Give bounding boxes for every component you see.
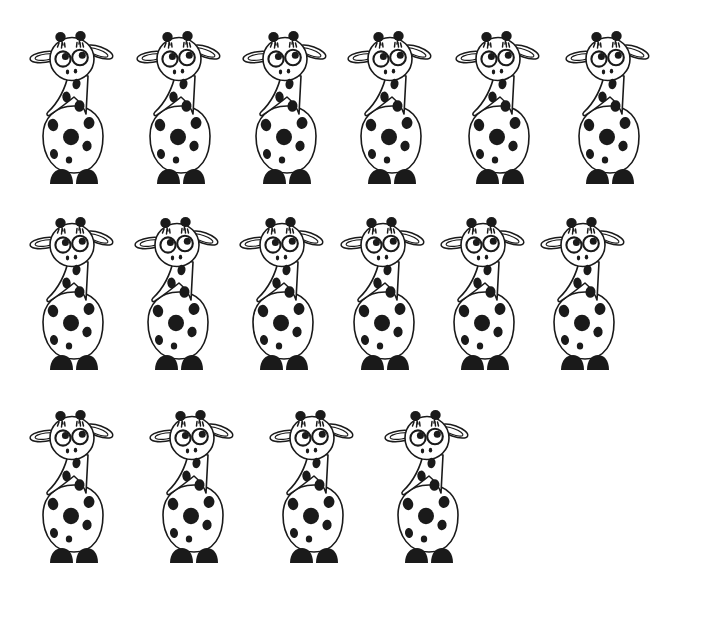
- giraffe-right-ossicone-knob: [393, 31, 403, 41]
- giraffe-left-nostril: [306, 449, 309, 454]
- giraffe-right-pupil: [434, 431, 441, 438]
- giraffe-right-pupil: [505, 52, 512, 59]
- giraffe-right-nostril: [500, 69, 503, 74]
- giraffe-right-nostril: [485, 255, 488, 260]
- giraffe-left-ossicone-knob: [466, 218, 476, 228]
- giraffe-right-pupil: [319, 431, 326, 438]
- giraffe-left-ossicone-knob: [366, 218, 376, 228]
- giraffe-right-ossicone-knob: [75, 410, 85, 420]
- giraffe-right-nostril: [429, 448, 432, 453]
- giraffe-left-pupil: [302, 432, 309, 439]
- giraffe-left-pupil: [573, 239, 580, 246]
- giraffe-left-ossicone-knob: [162, 32, 172, 42]
- giraffe-11[interactable]: [437, 212, 533, 382]
- giraffe-right-ossicone-knob: [586, 217, 596, 227]
- giraffe-2[interactable]: [133, 26, 229, 196]
- giraffe-right-pupil: [186, 52, 193, 59]
- giraffe-left-nostril: [577, 256, 580, 261]
- giraffe-left-ossicone-knob: [268, 32, 278, 42]
- giraffe-14[interactable]: [146, 405, 242, 575]
- giraffe-left-pupil: [275, 53, 282, 60]
- giraffe-right-ossicone-knob: [75, 217, 85, 227]
- giraffe-right-nostril: [194, 448, 197, 453]
- giraffe-right-nostril: [74, 69, 77, 74]
- giraffe-left-pupil: [488, 53, 495, 60]
- giraffe-left-ossicone-knob: [160, 218, 170, 228]
- giraffe-12[interactable]: [537, 212, 633, 382]
- giraffe-left-pupil: [272, 239, 279, 246]
- giraffe-right-nostril: [284, 255, 287, 260]
- giraffe-left-pupil: [62, 432, 69, 439]
- giraffe-15[interactable]: [266, 405, 362, 575]
- giraffe-right-nostril: [74, 255, 77, 260]
- giraffe-right-ossicone-knob: [182, 31, 192, 41]
- giraffe-left-pupil: [182, 432, 189, 439]
- giraffe-right-ossicone-knob: [486, 217, 496, 227]
- giraffe-left-ossicone-knob: [410, 411, 420, 421]
- giraffe-8[interactable]: [131, 212, 227, 382]
- giraffe-left-nostril: [173, 70, 176, 75]
- worksheet-canvas: [0, 0, 702, 621]
- giraffe-left-pupil: [62, 239, 69, 246]
- giraffe-left-ossicone-knob: [481, 32, 491, 42]
- giraffe-right-ossicone-knob: [611, 31, 621, 41]
- giraffe-right-nostril: [585, 255, 588, 260]
- giraffe-right-nostril: [385, 255, 388, 260]
- giraffe-left-pupil: [598, 53, 605, 60]
- giraffe-left-pupil: [380, 53, 387, 60]
- giraffe-left-ossicone-knob: [55, 411, 65, 421]
- giraffe-left-pupil: [417, 432, 424, 439]
- giraffe-right-nostril: [610, 69, 613, 74]
- giraffe-left-pupil: [169, 53, 176, 60]
- giraffe-right-pupil: [79, 52, 86, 59]
- giraffe-16[interactable]: [381, 405, 477, 575]
- giraffe-right-ossicone-knob: [386, 217, 396, 227]
- giraffe-left-nostril: [602, 70, 605, 75]
- giraffe-right-pupil: [390, 238, 397, 245]
- giraffe-left-ossicone-knob: [55, 218, 65, 228]
- giraffe-3[interactable]: [239, 26, 335, 196]
- giraffe-right-pupil: [292, 52, 299, 59]
- giraffe-13[interactable]: [26, 405, 122, 575]
- giraffe-6[interactable]: [562, 26, 658, 196]
- giraffe-left-ossicone-knob: [55, 32, 65, 42]
- giraffe-left-ossicone-knob: [175, 411, 185, 421]
- giraffe-left-nostril: [477, 256, 480, 261]
- giraffe-left-ossicone-knob: [265, 218, 275, 228]
- giraffe-left-pupil: [373, 239, 380, 246]
- giraffe-left-nostril: [186, 449, 189, 454]
- giraffe-7[interactable]: [26, 212, 122, 382]
- giraffe-left-pupil: [167, 239, 174, 246]
- giraffe-right-ossicone-knob: [430, 410, 440, 420]
- giraffe-right-pupil: [199, 431, 206, 438]
- giraffe-right-pupil: [490, 238, 497, 245]
- giraffe-left-nostril: [279, 70, 282, 75]
- giraffe-10[interactable]: [337, 212, 433, 382]
- giraffe-right-pupil: [289, 238, 296, 245]
- giraffe-left-ossicone-knob: [295, 411, 305, 421]
- giraffe-5[interactable]: [452, 26, 548, 196]
- giraffe-right-pupil: [79, 238, 86, 245]
- giraffe-right-ossicone-knob: [195, 410, 205, 420]
- giraffe-right-pupil: [397, 52, 404, 59]
- giraffe-left-pupil: [473, 239, 480, 246]
- giraffe-1[interactable]: [26, 26, 122, 196]
- giraffe-left-nostril: [384, 70, 387, 75]
- giraffe-left-nostril: [276, 256, 279, 261]
- giraffe-right-nostril: [181, 69, 184, 74]
- giraffe-right-pupil: [79, 431, 86, 438]
- giraffe-left-ossicone-knob: [566, 218, 576, 228]
- giraffe-9[interactable]: [236, 212, 332, 382]
- giraffe-left-pupil: [62, 53, 69, 60]
- giraffe-right-nostril: [314, 448, 317, 453]
- giraffe-right-ossicone-knob: [180, 217, 190, 227]
- giraffe-right-pupil: [615, 52, 622, 59]
- giraffe-right-pupil: [590, 238, 597, 245]
- giraffe-right-nostril: [74, 448, 77, 453]
- giraffe-right-ossicone-knob: [285, 217, 295, 227]
- giraffe-left-nostril: [66, 70, 69, 75]
- giraffe-left-ossicone-knob: [591, 32, 601, 42]
- giraffe-right-nostril: [287, 69, 290, 74]
- giraffe-4[interactable]: [344, 26, 440, 196]
- giraffe-right-ossicone-knob: [288, 31, 298, 41]
